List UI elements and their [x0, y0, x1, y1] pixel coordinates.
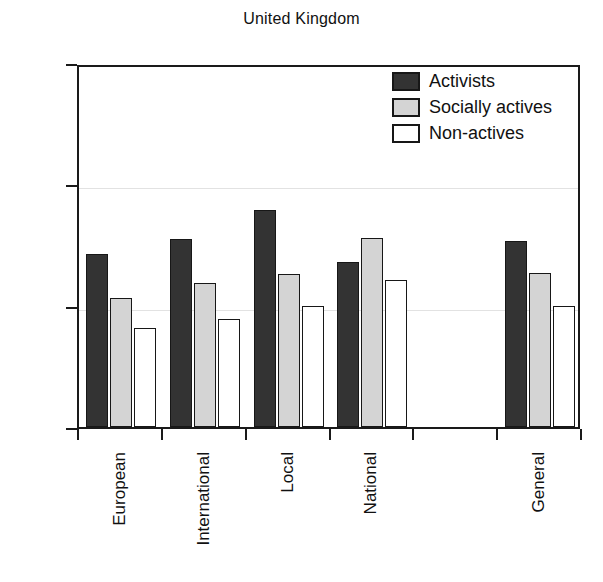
dark-swatch-icon [392, 72, 420, 91]
y-tick-mark [66, 307, 77, 309]
bar-national-socially-actives [361, 238, 383, 427]
legend-item-non-actives[interactable]: Non-actives [392, 122, 552, 144]
bar-european-socially-actives [110, 298, 132, 427]
x-tick-label-general: General [529, 452, 549, 512]
legend-item-socially-actives[interactable]: Socially actives [392, 96, 552, 118]
x-tick-mark [580, 429, 582, 440]
bar-general-socially-actives [529, 273, 551, 427]
y-tick-mark [66, 428, 77, 430]
chart-title: United Kingdom [0, 10, 603, 28]
bar-european-activists [86, 254, 108, 428]
bar-international-activists [170, 239, 192, 427]
x-tick-mark [161, 429, 163, 440]
x-tick-label-international: International [194, 452, 214, 546]
legend-item-activists[interactable]: Activists [392, 70, 552, 92]
x-tick-label-local: Local [278, 452, 298, 493]
legend-label: Activists [429, 71, 495, 92]
bar-general-non-actives [553, 306, 575, 427]
legend-label: Non-actives [429, 123, 524, 144]
x-tick-mark [496, 429, 498, 440]
legend-label: Socially actives [429, 97, 552, 118]
bar-general-activists [505, 241, 527, 427]
y-tick-mark [66, 185, 77, 187]
chart-legend: ActivistsSocially activesNon-actives [392, 70, 552, 144]
white-swatch-icon [392, 124, 420, 143]
x-tick-label-european: European [110, 452, 130, 526]
y-tick-mark [66, 64, 77, 66]
bar-local-non-actives [302, 306, 324, 427]
x-tick-mark [412, 429, 414, 440]
bar-international-socially-actives [194, 283, 216, 427]
bar-local-socially-actives [278, 274, 300, 427]
x-tick-label-national: National [361, 452, 381, 514]
bar-international-non-actives [218, 319, 240, 427]
bar-national-activists [337, 262, 359, 427]
bar-european-non-actives [134, 328, 156, 427]
x-tick-mark [329, 429, 331, 440]
x-tick-mark [77, 429, 79, 440]
bar-local-activists [254, 210, 276, 427]
bar-national-non-actives [385, 280, 407, 427]
x-tick-mark [245, 429, 247, 440]
gray-swatch-icon [392, 98, 420, 117]
